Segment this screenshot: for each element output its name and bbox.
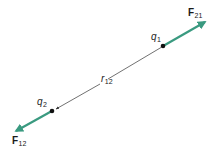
label-q1: q1 [151, 32, 161, 43]
separation-line-upper [108, 48, 161, 80]
charge-q1-dot [161, 44, 166, 49]
force-arrow-f12 [16, 112, 51, 132]
label-f21: F21 [188, 8, 202, 19]
label-q2: q2 [37, 97, 47, 108]
label-f12: F12 [12, 136, 26, 147]
label-r12: r12 [101, 74, 113, 85]
force-arrow-f21 [164, 22, 205, 46]
separation-line-lower [56, 84, 100, 109]
charge-q2-dot [50, 109, 55, 114]
